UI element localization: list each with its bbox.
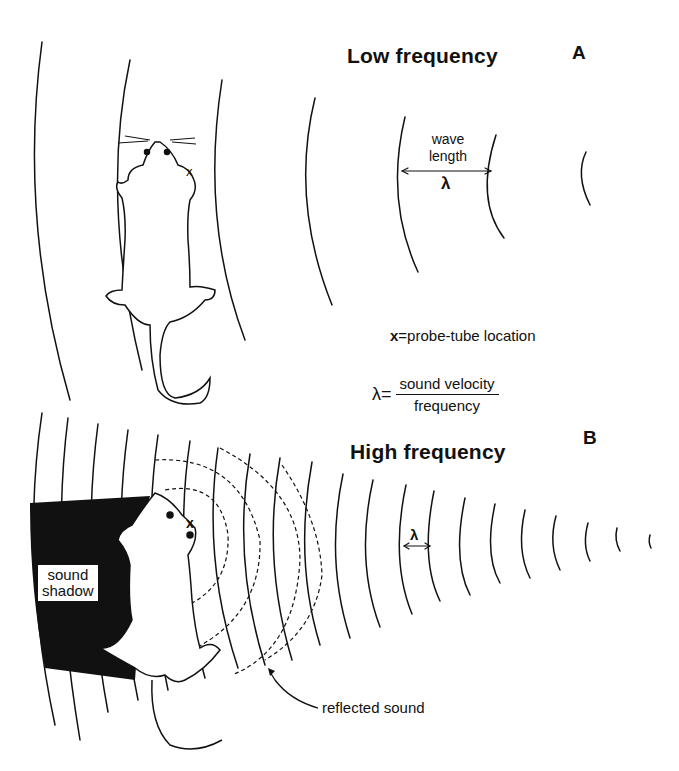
probe-legend-text: =probe-tube location	[398, 327, 535, 344]
panel-a-letter: A	[572, 42, 586, 64]
probe-legend: x=probe-tube location	[390, 327, 536, 344]
shadow-label-line2: shadow	[42, 583, 94, 599]
panel-b-title: High frequency	[350, 440, 506, 464]
wave-arc-a5	[397, 117, 418, 272]
wavelength-symbol-b: λ	[410, 526, 418, 543]
sound-shadow-label: sound shadow	[38, 565, 98, 601]
shadow-label-line1: sound	[42, 567, 94, 583]
rat-top-view-a	[106, 136, 215, 404]
wavelength-label: wave length	[418, 131, 478, 165]
wave-arc-a3	[215, 80, 245, 340]
wavelength-symbol-a: λ	[441, 174, 450, 194]
wavelength-label-line2: length	[418, 148, 478, 165]
reflected-sound-label: reflected sound	[322, 699, 425, 716]
formula-numerator: sound velocity	[396, 375, 499, 395]
wave-arc-a7	[581, 152, 590, 205]
panel-b-letter: B	[583, 427, 597, 449]
wavelength-label-line1: wave	[418, 131, 478, 148]
probe-marker-a: x	[186, 164, 193, 179]
wave-arc-a1	[34, 42, 70, 400]
wavelength-formula: λ= sound velocity frequency	[372, 375, 499, 414]
wave-arc-a6	[487, 135, 504, 238]
formula-denominator: frequency	[414, 395, 480, 414]
figure-canvas: x	[0, 0, 679, 771]
probe-marker-b: x	[186, 515, 194, 531]
wave-arc-a4	[306, 98, 332, 305]
panel-a-title: Low frequency	[347, 44, 498, 68]
formula-lhs: λ=	[372, 384, 392, 405]
